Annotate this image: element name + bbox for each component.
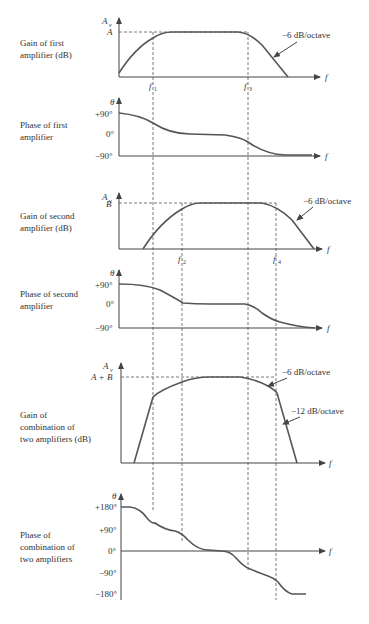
f1-subscript: 1 [154,86,157,92]
f2-subscript: 2 [183,259,186,265]
bode-diagram: A v A f f 1 f 3 −6 dB/octave θ +90° 0° −… [0,0,369,624]
level-B: B [106,199,112,209]
tick-zero: 0° [106,129,115,139]
gain1-curve [119,32,288,77]
annotation-arrow [274,42,297,57]
x-axis-label: f [329,546,333,556]
level-A-plus-B: A + B [90,372,113,382]
tick-plus90: +90° [95,109,113,119]
tick-plus180: +180° [95,502,118,512]
gain2-chart: A v B f f 2 f 4 −6 dB/octave [101,192,351,265]
annotation-arrow [297,207,313,220]
y-axis-label: A [101,16,108,26]
y-axis-label: θ [110,97,115,107]
f3-subscript: 3 [249,86,252,92]
gain1-chart: A v A f f 1 f 3 −6 dB/octave [101,16,330,92]
y-axis-label: A [102,361,109,371]
tick-minus180: −180° [95,589,118,599]
y-axis-label: θ [112,491,117,501]
f4-subscript: 4 [278,259,281,265]
x-axis-label: f [327,323,331,333]
f1-label: f [149,81,153,91]
tick-plus90: +90° [95,280,113,290]
gain2-curve [143,203,314,249]
phase2-curve [119,284,315,328]
phase2-chart: θ +90° 0° −90° f [95,268,331,333]
slope12-annotation: −12 dB/octave [291,406,344,416]
tick-minus90: −90° [95,151,113,161]
f2-label: f [178,254,182,264]
tick-zero: 0° [108,546,117,556]
tick-plus90: +90° [99,525,117,535]
tick-zero: 0° [106,299,115,309]
annotation-arrow [268,378,287,386]
phase1-chart: θ +90° 0° −90° f [95,97,329,161]
phase1-curve [119,113,312,155]
slope-annotation: −6 dB/octave [282,30,330,40]
x-axis-label: f [325,72,329,82]
gainc-chart: A v A + B f −6 dB/octave −12 dB/octave [90,361,344,468]
x-axis-label: f [327,244,331,254]
gainc-curve [134,377,297,463]
f3-label: f [244,81,248,91]
y-axis-label: θ [110,268,115,278]
phasec-chart: θ +180° +90° 0° −90° −180° f [95,491,333,600]
tick-minus90: −90° [95,323,113,333]
level-A: A [106,27,113,37]
slope-annotation: −6 dB/octave [303,196,351,206]
tick-minus90: −90° [99,568,117,578]
slope6-annotation: −6 dB/octave [282,367,330,377]
x-axis-label: f [325,151,329,161]
x-axis-label: f [329,458,333,468]
